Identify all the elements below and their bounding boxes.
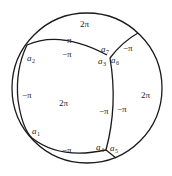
edge-label-bottom: −π — [62, 145, 72, 155]
svg-text:7: 7 — [106, 49, 109, 55]
svg-text:6: 6 — [116, 60, 119, 66]
vertex-a2: a 2 — [27, 53, 35, 64]
vertex-a6: a 6 — [111, 55, 119, 66]
edge-label-upper-right: −π — [123, 43, 133, 53]
vertical-arc — [106, 58, 113, 150]
vertex-a5: a 5 — [110, 143, 118, 154]
edge-label-mid-left: −π — [99, 106, 109, 116]
svg-text:5: 5 — [115, 148, 118, 154]
edge-label-left: −π — [22, 90, 32, 100]
svg-text:1: 1 — [37, 131, 40, 137]
diagram-canvas: 2π 2π 2π −π −π −π −π −π −π −π a 2 a 7 a … — [0, 0, 172, 176]
vertex-a7: a 7 — [101, 44, 109, 55]
vertex-a3: a 3 — [98, 56, 106, 67]
edge-label-top-upper: −π — [62, 35, 72, 45]
edge-label-mid-right: −π — [117, 104, 127, 114]
svg-text:2: 2 — [32, 58, 35, 64]
region-right-label: 2π — [141, 90, 151, 100]
vertex-a4: a 4 — [96, 142, 104, 153]
region-center-label: 2π — [59, 98, 69, 108]
svg-text:3: 3 — [103, 61, 106, 67]
region-top-label: 2π — [80, 19, 90, 29]
svg-text:4: 4 — [101, 147, 104, 153]
edge-label-top-lower: −π — [62, 49, 72, 59]
vertex-a1: a 1 — [32, 126, 40, 137]
